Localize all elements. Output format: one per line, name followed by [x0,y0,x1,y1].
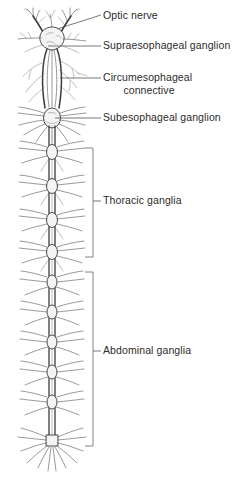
label-abdominal-ganglia: Abdominal ganglia [103,344,191,357]
circumesophageal-connective-shape [43,49,62,108]
label-circumesophageal-connective: Circumesophageal connective [103,71,223,97]
label-circumesophageal-line2: connective [103,84,195,97]
optic-nerve-right [58,8,80,34]
supraesophageal-ganglion-shape [40,27,64,50]
label-optic-nerve: Optic nerve [103,9,158,22]
label-subesophageal-ganglion: Subesophageal ganglion [103,111,221,124]
nervous-system-diagram: .ink { stroke: #3a3a3a; fill: none; stro… [0,0,244,487]
abdominal-bracket [85,272,93,446]
thoracic-bracket [85,148,93,257]
optic-nerve-leader [57,15,101,29]
range-brackets [85,148,93,446]
label-supraesophageal-ganglion: Supraesophageal ganglion [103,39,230,52]
optic-nerve-left [24,8,45,34]
label-circumesophageal-line1: Circumesophageal [103,71,223,84]
stomatogastric-nerves [23,60,87,102]
label-thoracic-ganglia: Thoracic ganglia [103,194,182,207]
